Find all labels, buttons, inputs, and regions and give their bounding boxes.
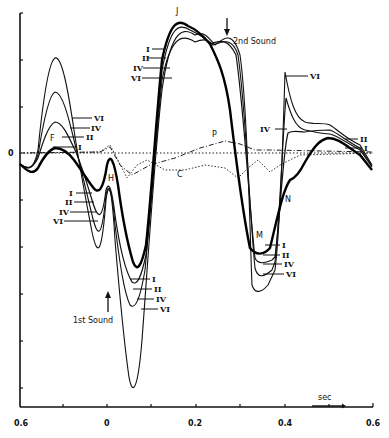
label-IV-right-lower: IV (284, 259, 295, 269)
curve-II (20, 27, 372, 283)
label-II-left-lower: II (65, 197, 73, 207)
label-P: P (212, 130, 217, 139)
arrow-right-icon (342, 404, 346, 409)
x-tick-0: 0 (104, 419, 110, 428)
sec-arrow: sec (312, 393, 346, 409)
label-II-left-upper: II (86, 132, 94, 142)
x-tick-0-2: 0.2 (188, 419, 202, 428)
label-IV-top: IV (133, 63, 144, 73)
label-II-bottom: II (154, 284, 162, 294)
label-F: F (50, 134, 55, 143)
second-sound-arrow (224, 18, 230, 36)
first-sound-arrow (105, 291, 111, 312)
label-N: N (285, 195, 291, 204)
label-I-bottom: I (152, 274, 156, 284)
x-tick-left: 0.6 (14, 419, 29, 428)
label-I-left-upper: I (78, 142, 82, 152)
label-H: H (108, 174, 114, 183)
arrow-up-icon (105, 291, 111, 298)
x-tick-0-4: 0.4 (278, 419, 293, 428)
label-I-right: I (364, 143, 368, 153)
second-sound-label: 2nd Sound (233, 37, 276, 46)
waveform-chart: 0 0.6 0 0.2 0.4 0.6 sec VI IV II I F I I… (0, 0, 389, 438)
label-J: J (175, 7, 178, 16)
label-I-right-lower: I (282, 240, 286, 250)
label-IV-bottom: IV (156, 294, 167, 304)
y-tick-zero: 0 (8, 149, 14, 158)
sec-label: sec (318, 393, 332, 402)
curve-VI (20, 32, 372, 388)
labels-right-lower (263, 245, 284, 274)
label-VI-right-lower: VI (285, 269, 296, 279)
label-IV-right: IV (260, 124, 271, 134)
label-VI-bottom: VI (159, 304, 170, 314)
label-VI-top: VI (130, 73, 141, 83)
label-VI-left-upper: VI (93, 113, 104, 123)
first-sound-label: 1st Sound (73, 316, 113, 325)
label-C: C (177, 170, 183, 179)
axes (20, 13, 373, 407)
arrow-down-icon (224, 29, 230, 36)
label-M: M (256, 231, 263, 240)
x-tick-0-6: 0.6 (366, 419, 381, 428)
trace-C-dotted (20, 145, 373, 178)
label-II-top: II (142, 53, 150, 63)
label-VI-left-lower: VI (52, 216, 63, 226)
label-VI-right: VI (309, 71, 320, 81)
